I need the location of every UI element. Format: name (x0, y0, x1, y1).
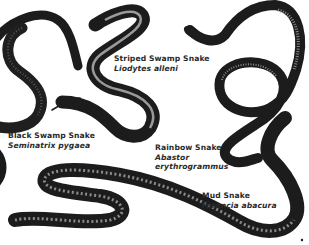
snake-plate: Striped Swamp Snake Liodytes alleni Blac… (0, 0, 309, 245)
label-striped-swamp-snake: Striped Swamp Snake Liodytes alleni (114, 54, 210, 73)
label-black-swamp-snake: Black Swamp Snake Seminatrix pygaea (8, 131, 95, 150)
rainbow-snake-illustration (182, 5, 300, 162)
striped-swamp-snake-illustration (62, 11, 153, 136)
common-name: Rainbow Snake (155, 143, 228, 153)
scientific-name: Seminatrix pygaea (8, 141, 95, 151)
scientific-name: Farancia abacura (202, 201, 277, 211)
scientific-name: Abastor (155, 153, 228, 163)
scientific-name-line2: erythrogrammus (155, 162, 228, 172)
common-name: Black Swamp Snake (8, 131, 95, 141)
common-name: Mud Snake (202, 191, 277, 201)
scientific-name: Liodytes alleni (114, 64, 210, 74)
common-name: Striped Swamp Snake (114, 54, 210, 64)
label-mud-snake: Mud Snake Farancia abacura (202, 191, 277, 210)
label-rainbow-snake: Rainbow Snake Abastor erythrogrammus (155, 143, 228, 172)
